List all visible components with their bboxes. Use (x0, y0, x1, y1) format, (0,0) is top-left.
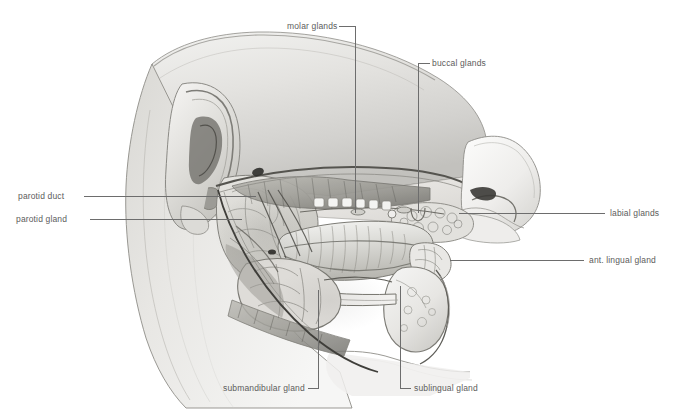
label-labial-glands: labial glands (610, 208, 659, 218)
leader-molar-glands-horizontal (339, 26, 356, 27)
leader-labial-glands (459, 213, 605, 214)
label-ant-lingual-gland: ant. lingual gland (589, 255, 656, 265)
leader-buccal-glands-horizontal (418, 63, 430, 64)
label-parotid-duct: parotid duct (18, 191, 64, 201)
label-submandibular-gland: submandibular gland (223, 383, 305, 393)
anatomy-figure: molar glands buccal glands parotid duct … (0, 0, 682, 414)
leader-sublingual-gland-vertical (400, 286, 401, 388)
leader-sublingual-gland-horizontal (400, 388, 411, 389)
leader-parotid-gland (90, 219, 242, 220)
leader-buccal-glands-vertical (418, 63, 419, 213)
label-buccal-glands: buccal glands (432, 58, 486, 68)
label-parotid-gland: parotid gland (16, 214, 67, 224)
label-sublingual-gland: sublingual gland (414, 383, 478, 393)
leader-ant-lingual-gland (450, 260, 584, 261)
label-molar-glands: molar glands (287, 21, 337, 31)
leader-parotid-duct (84, 196, 256, 197)
head-anatomy-illustration (0, 0, 682, 414)
leader-submandibular-gland-vertical (318, 290, 319, 388)
leader-submandibular-gland-horizontal (308, 388, 319, 389)
leader-molar-glands-vertical (355, 26, 356, 213)
